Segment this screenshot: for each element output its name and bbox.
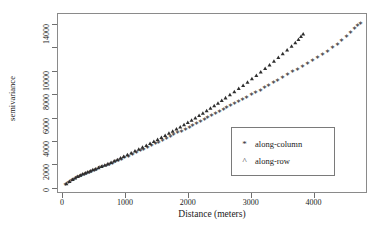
legend-item-along-column: * along-column — [241, 139, 302, 149]
data-point — [272, 59, 276, 63]
data-point — [220, 99, 224, 103]
y-tick-label: 14000 — [0, 20, 50, 28]
legend-marker-asterisk-icon: * — [241, 139, 248, 149]
data-point — [276, 56, 280, 60]
data-point — [197, 114, 201, 118]
data-point — [237, 87, 241, 91]
data-point — [290, 44, 294, 48]
data-point — [193, 116, 197, 120]
y-tick-label: 10000 — [0, 67, 50, 75]
data-point — [285, 48, 289, 52]
data-point — [254, 73, 258, 77]
y-tick-label: 4000 — [0, 137, 50, 145]
x-tick-label: 0 — [37, 198, 87, 207]
x-tick-label: 4000 — [289, 198, 339, 207]
data-point — [224, 96, 228, 100]
x-tick-label: 1000 — [100, 198, 150, 207]
legend-label-along-column: along-column — [255, 139, 302, 149]
data-point — [228, 93, 232, 97]
data-point — [259, 70, 263, 74]
data-point — [212, 104, 216, 108]
y-tick-label: 2000 — [0, 160, 50, 168]
data-point — [205, 109, 209, 113]
chart-legend: * along-column ^ along-row — [231, 127, 335, 176]
data-point: ∗ — [358, 19, 363, 26]
y-tick-label: 0 — [0, 184, 50, 192]
semivariogram-figure: semivariance 020004000600080001000014000… — [0, 0, 381, 230]
data-point — [268, 63, 272, 67]
data-point — [246, 80, 250, 84]
data-point — [281, 52, 285, 56]
data-point — [250, 77, 254, 81]
data-point — [263, 67, 267, 71]
legend-label-along-row: along-row — [255, 156, 290, 166]
data-point — [201, 111, 205, 115]
data-point — [241, 83, 245, 87]
y-tick-label: 8000 — [0, 90, 50, 98]
x-axis-title: Distance (meters) — [57, 209, 367, 220]
x-tick-label: 2000 — [163, 198, 213, 207]
x-tick-label: 3000 — [226, 198, 276, 207]
legend-item-along-row: ^ along-row — [241, 156, 290, 166]
data-point — [301, 32, 305, 36]
data-point — [293, 41, 297, 45]
y-tick-label: 6000 — [0, 114, 50, 122]
data-point — [208, 106, 212, 110]
data-point — [232, 90, 236, 94]
data-point — [216, 101, 220, 105]
legend-marker-caret-icon: ^ — [241, 156, 248, 166]
